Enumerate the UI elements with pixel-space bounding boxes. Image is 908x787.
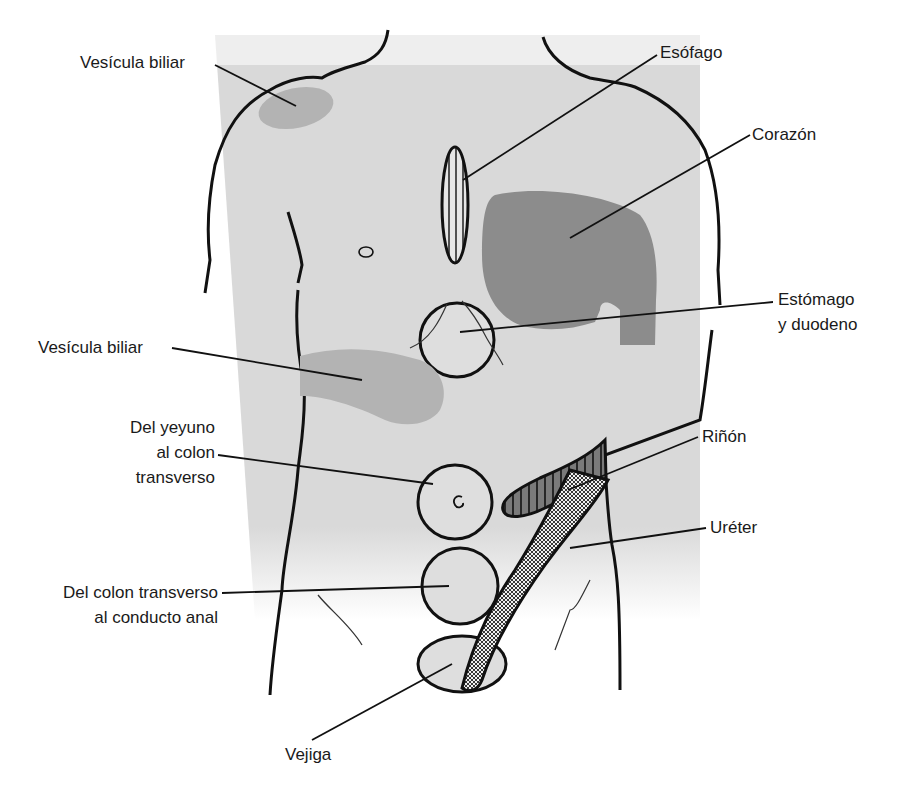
label-estomago-line2: y duodeno [778,312,857,337]
region-yeyuno [418,465,492,539]
label-vesicula-mid: Vesícula biliar [38,335,143,360]
label-colon-line2: al conducto anal [10,605,218,630]
label-vesicula-top: Vesícula biliar [80,50,185,75]
label-rinon: Riñón [702,424,746,449]
leader-vejiga [312,664,452,740]
label-corazon: Corazón [752,122,816,147]
label-esofago: Esófago [660,40,722,65]
region-esofago [442,147,468,263]
label-yeyuno-line3: transverso [95,465,215,490]
region-estomago [420,303,494,377]
label-yeyuno-line2: al colon [95,440,215,465]
label-ureter: Uréter [710,515,757,540]
label-colon-line1: Del colon transverso [10,580,218,605]
anatomy-diagram: Vesícula biliar Esófago Corazón Estómago… [0,0,908,787]
label-yeyuno-line1: Del yeyuno [95,415,215,440]
label-estomago-line1: Estómago [778,287,855,312]
torso-illustration [0,0,908,787]
label-vejiga: Vejiga [285,742,331,767]
